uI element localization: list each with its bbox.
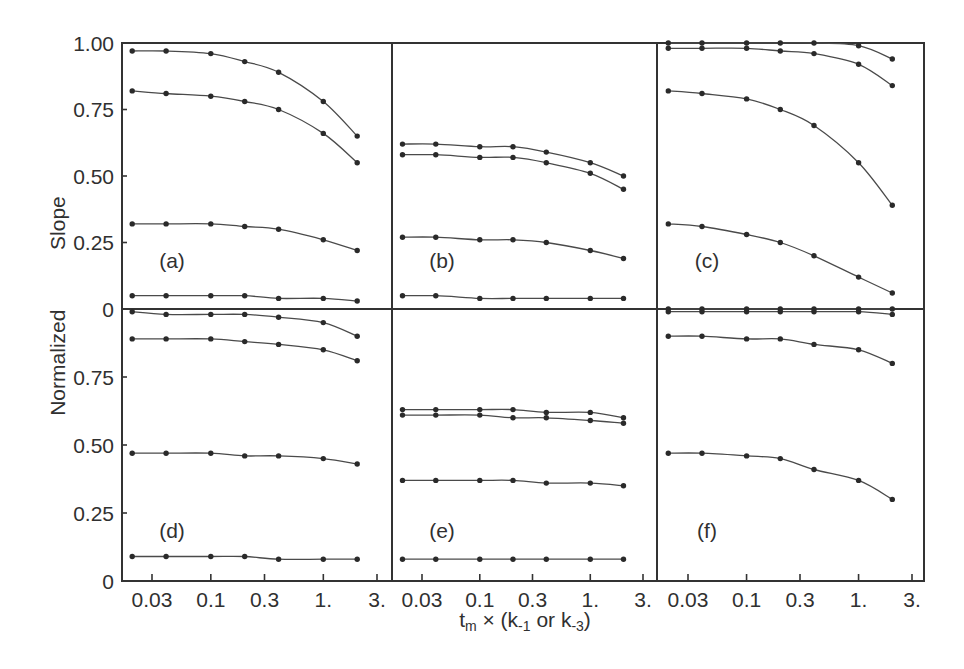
x-tick-label: 3.: [634, 588, 652, 611]
data-point: [163, 48, 168, 53]
data-point: [433, 293, 438, 298]
data-point: [588, 160, 593, 165]
x-axis-title-sub-minus1: -1: [518, 618, 531, 634]
x-tick-label: 1.: [315, 588, 333, 611]
data-point: [242, 59, 247, 64]
data-point: [544, 296, 549, 301]
data-point: [510, 296, 515, 301]
data-point: [130, 48, 135, 53]
data-point: [744, 40, 749, 45]
x-tick-label: 0.3: [785, 588, 814, 611]
data-point: [666, 88, 671, 93]
data-point: [400, 557, 405, 562]
data-point: [778, 107, 783, 112]
x-tick-label: 0.1: [196, 588, 225, 611]
y-tick-label: 0.25: [73, 231, 114, 254]
data-point: [163, 293, 168, 298]
data-point: [130, 221, 135, 226]
data-point: [666, 451, 671, 456]
data-point: [588, 418, 593, 423]
data-point: [355, 298, 360, 303]
data-point: [242, 453, 247, 458]
data-point: [400, 412, 405, 417]
data-point: [544, 410, 549, 415]
data-point: [699, 309, 704, 314]
x-axis-title-close: ): [584, 608, 591, 631]
data-point: [208, 221, 213, 226]
series: [666, 451, 895, 503]
data-point: [666, 46, 671, 51]
data-point: [778, 336, 783, 341]
data-point: [355, 133, 360, 138]
data-point: [544, 240, 549, 245]
data-point: [510, 415, 515, 420]
data-point: [856, 62, 861, 67]
x-tick-label: 1.: [850, 588, 868, 611]
data-point: [276, 342, 281, 347]
data-point: [778, 240, 783, 245]
series: [130, 336, 360, 363]
data-point: [433, 152, 438, 157]
series: [666, 88, 895, 208]
data-point: [699, 224, 704, 229]
data-point: [778, 456, 783, 461]
data-point: [856, 309, 861, 314]
data-point: [621, 557, 626, 562]
data-point: [890, 56, 895, 61]
data-point: [433, 235, 438, 240]
series: [400, 152, 626, 192]
data-point: [477, 412, 482, 417]
x-axis-title-times-k: × (k: [477, 608, 519, 631]
y-tick-label: 0.25: [73, 502, 114, 525]
data-point: [321, 347, 326, 352]
data-point: [163, 451, 168, 456]
panel-label: (d): [159, 519, 185, 542]
data-point: [621, 173, 626, 178]
data-point: [130, 309, 135, 314]
data-point: [621, 483, 626, 488]
data-point: [666, 40, 671, 45]
x-tick-label: 0.03: [402, 588, 443, 611]
data-point: [355, 358, 360, 363]
x-tick-label: 0.03: [132, 588, 173, 611]
data-point: [208, 451, 213, 456]
series: [130, 554, 360, 562]
data-point: [477, 237, 482, 242]
data-point: [208, 51, 213, 56]
data-point: [811, 309, 816, 314]
axis-ticks: 1.000.750.500.2500.750.500.2500.030.10.3…: [73, 32, 921, 611]
data-point: [510, 407, 515, 412]
data-point: [811, 467, 816, 472]
data-point: [811, 342, 816, 347]
data-point: [477, 478, 482, 483]
data-point: [890, 290, 895, 295]
data-point: [699, 91, 704, 96]
series: [666, 334, 895, 367]
data-point: [163, 221, 168, 226]
data-point: [778, 40, 783, 45]
data-point: [588, 557, 593, 562]
data-point: [242, 339, 247, 344]
data-point: [163, 91, 168, 96]
y-tick-label: 0.50: [73, 434, 114, 457]
data-point: [890, 497, 895, 502]
data-point: [276, 296, 281, 301]
data-point: [811, 123, 816, 128]
data-point: [355, 461, 360, 466]
data-point: [477, 296, 482, 301]
series: [400, 412, 626, 426]
data-point: [744, 46, 749, 51]
data-point: [510, 557, 515, 562]
panel-b: (b): [400, 141, 626, 301]
y-axis-title: Normalized Slope: [46, 196, 69, 416]
y-tick-label: 0.50: [73, 165, 114, 188]
x-tick-label: 0.3: [250, 588, 279, 611]
data-point: [890, 312, 895, 317]
figure-six-panel-chart: 1.000.750.500.2500.750.500.2500.030.10.3…: [0, 0, 964, 669]
series: [400, 293, 626, 301]
data-point: [400, 141, 405, 146]
y-tick-label: 0.75: [73, 98, 114, 121]
data-point: [621, 187, 626, 192]
data-point: [321, 456, 326, 461]
data-point: [321, 99, 326, 104]
